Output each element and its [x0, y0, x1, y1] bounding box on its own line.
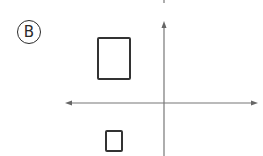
x-axis-arrow-left-icon	[65, 101, 72, 106]
y-axis-arrow-up-icon	[162, 21, 167, 28]
x-axis-arrow-right-icon	[251, 101, 258, 106]
large-rectangle	[97, 37, 131, 80]
diagram-stage: B	[0, 0, 263, 156]
coordinate-axes	[0, 0, 263, 156]
small-rectangle	[105, 130, 123, 152]
